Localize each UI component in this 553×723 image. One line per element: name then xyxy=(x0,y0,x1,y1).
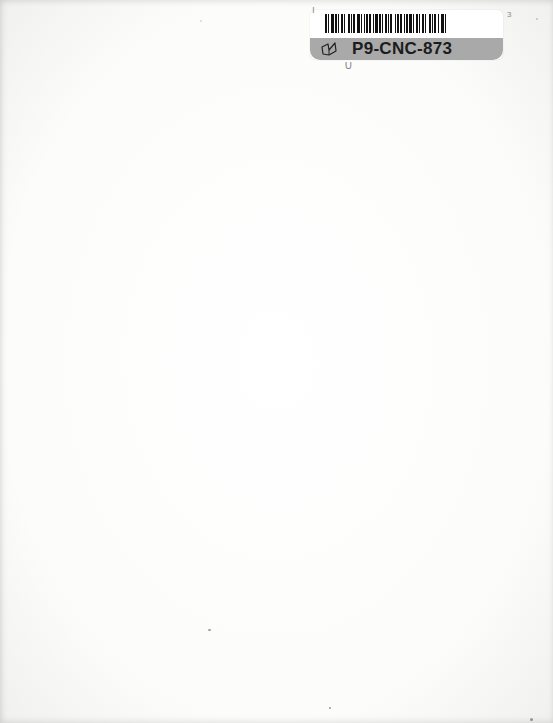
label-id-text: P9-CNC-873 xyxy=(352,39,452,59)
pencil-mark: ∪ xyxy=(344,58,353,72)
speck xyxy=(208,629,211,631)
speck xyxy=(329,707,331,709)
book-icon xyxy=(320,41,338,57)
page-edge-shadow xyxy=(0,0,553,723)
speck xyxy=(536,18,538,20)
pencil-mark: ı xyxy=(312,4,315,15)
label-id-band: P9-CNC-873 xyxy=(310,38,503,60)
barcode-space xyxy=(446,14,448,33)
barcode-strip xyxy=(310,10,503,38)
barcode-label: P9-CNC-873 xyxy=(310,10,503,60)
speck xyxy=(530,718,533,721)
pencil-mark: 3 xyxy=(507,10,511,19)
barcode-bars xyxy=(325,14,448,33)
speck xyxy=(200,20,202,22)
scanned-page: P9-CNC-873 ı ∪ 3 xyxy=(0,0,553,723)
